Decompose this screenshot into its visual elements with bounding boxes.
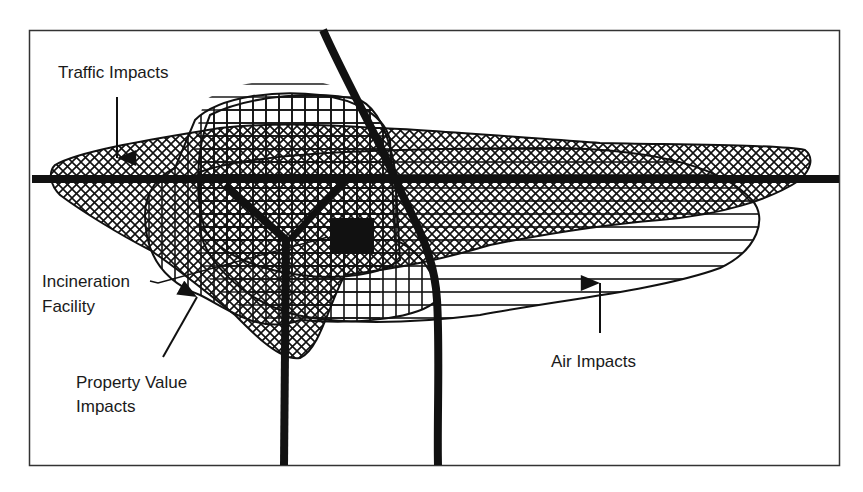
property-value-label-line1: Property Value xyxy=(76,372,187,393)
traffic-impacts-label: Traffic Impacts xyxy=(58,62,169,83)
incineration-facility-icon xyxy=(330,218,374,254)
property-value-label-line2: Impacts xyxy=(76,396,136,417)
air-impacts-label: Air Impacts xyxy=(551,351,636,372)
road-y-stem xyxy=(284,238,286,465)
incineration-facility-label-line1: Incineration xyxy=(42,271,130,292)
incineration-facility-label-line2: Facility xyxy=(42,296,95,317)
